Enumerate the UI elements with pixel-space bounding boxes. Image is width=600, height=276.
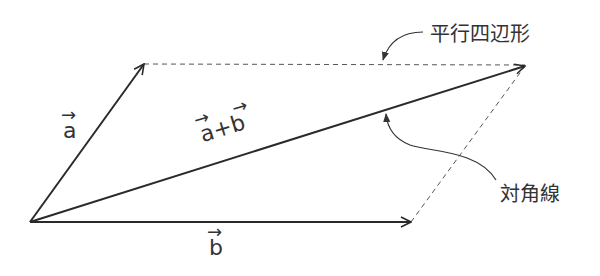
- diagonal-label: 対角線: [500, 184, 560, 204]
- vector-a-label: → a: [63, 120, 76, 142]
- dashed-top-side: [144, 64, 525, 65]
- vector-arrow-icon: →: [61, 106, 76, 124]
- vector-a-arrow: [30, 64, 144, 222]
- parallelogram-pointer-icon: [383, 32, 423, 60]
- vector-b-label: → b: [209, 237, 223, 259]
- diagonal-pointer-icon: [386, 114, 496, 180]
- sum-vector-arrow: [30, 66, 525, 222]
- parallelogram-label: 平行四辺形: [430, 24, 530, 44]
- vector-arrow-icon: →: [207, 223, 222, 241]
